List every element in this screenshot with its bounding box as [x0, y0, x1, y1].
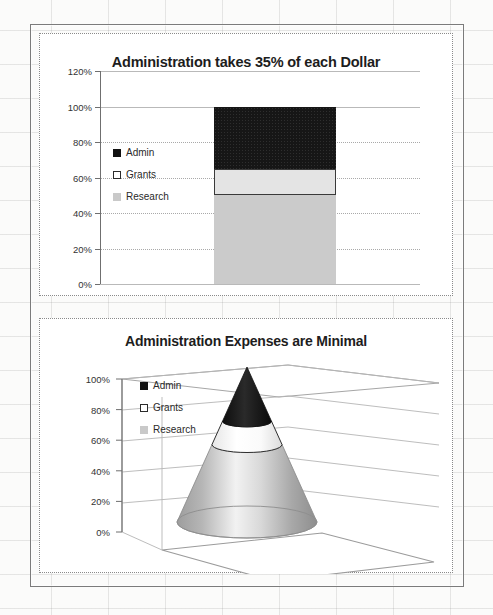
stacked-column-chart-title: Administration takes 35% of each Dollar: [40, 54, 452, 70]
cone-legend-item-admin[interactable]: Admin: [140, 380, 196, 391]
stacked-column-chart-inner: Administration takes 35% of each Dollar …: [40, 34, 452, 295]
stacked-cone-legend: Admin Grants Research: [140, 380, 196, 446]
y-axis-label-40: 40%: [73, 208, 92, 219]
gridline-0: [100, 284, 420, 285]
legend-swatch-admin-icon: [113, 149, 121, 157]
y-axis-label-0: 0%: [78, 279, 92, 290]
cone-y-axis-label-60: 60%: [66, 435, 110, 446]
stacked-column-legend: Admin Grants Research: [113, 147, 169, 213]
cone-chart-y-ticks: [116, 379, 122, 532]
legend-swatch-grants-icon: [113, 171, 121, 179]
cone-3d-scene: 100% 80% 60% 40% 20% 0% Admin Grants Res…: [40, 319, 452, 572]
cone-y-axis-label-40: 40%: [66, 465, 110, 476]
cone-legend-label-research: Research: [153, 424, 196, 435]
legend-item-grants[interactable]: Grants: [113, 169, 169, 180]
cone-legend-swatch-admin-icon: [140, 382, 148, 390]
cone-y-axis-label-20: 20%: [66, 496, 110, 507]
legend-label-grants: Grants: [126, 169, 156, 180]
cone-chart-floor-plane: [162, 533, 434, 574]
y-axis-label-60: 60%: [73, 172, 92, 183]
cone-y-axis-label-0: 0%: [66, 527, 110, 538]
legend-label-research: Research: [126, 191, 169, 202]
y-tick-60: [95, 178, 100, 179]
cone-y-axis-label-100: 100%: [66, 374, 110, 385]
bar-segment-research[interactable]: [214, 195, 336, 284]
bar-segment-admin[interactable]: [214, 107, 336, 169]
legend-swatch-research-icon: [113, 193, 121, 201]
stacked-cone-chart-inner: Administration Expenses are Minimal: [40, 319, 452, 572]
legend-label-admin: Admin: [126, 147, 154, 158]
cone-legend-swatch-grants-icon: [140, 404, 148, 412]
y-tick-0: [95, 284, 100, 285]
cone-legend-swatch-research-icon: [140, 426, 148, 434]
y-axis-label-20: 20%: [73, 243, 92, 254]
cone-y-axis-label-80: 80%: [66, 404, 110, 415]
stacked-column-y-axis: [100, 71, 101, 284]
y-tick-40: [95, 213, 100, 214]
stacked-column-bar[interactable]: [214, 107, 336, 285]
stacked-column-chart[interactable]: Administration takes 35% of each Dollar …: [39, 33, 453, 296]
cone-legend-item-research[interactable]: Research: [140, 424, 196, 435]
y-tick-80: [95, 142, 100, 143]
y-axis-label-100: 100%: [68, 101, 92, 112]
y-tick-100: [95, 107, 100, 108]
bar-segment-grants[interactable]: [214, 169, 336, 196]
gridline-120: [100, 71, 420, 72]
y-tick-120: [95, 71, 100, 72]
cone-legend-item-grants[interactable]: Grants: [140, 402, 196, 413]
y-axis-label-80: 80%: [73, 137, 92, 148]
y-axis-label-120: 120%: [68, 66, 92, 77]
stacked-cone-3d-chart[interactable]: Administration Expenses are Minimal: [39, 318, 453, 573]
legend-item-research[interactable]: Research: [113, 191, 169, 202]
cone-legend-label-admin: Admin: [153, 380, 181, 391]
legend-item-admin[interactable]: Admin: [113, 147, 169, 158]
cone-segment-admin: [223, 367, 272, 427]
cone-legend-label-grants: Grants: [153, 402, 183, 413]
y-tick-20: [95, 249, 100, 250]
